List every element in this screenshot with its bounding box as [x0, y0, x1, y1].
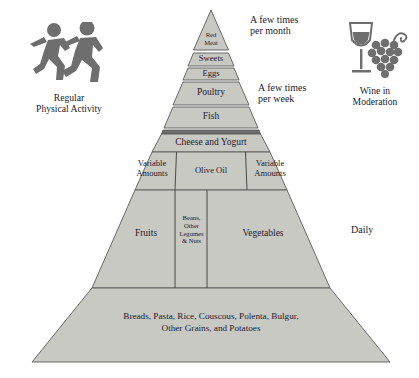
tier-shape-produce-row — [92, 190, 330, 288]
tier-divider-band — [162, 130, 261, 134]
tier-shape-base-grains — [32, 288, 390, 362]
tier-shape-eggs — [183, 68, 239, 80]
wine-glass-grapes-icon — [340, 20, 412, 82]
running-people-icon — [24, 22, 114, 84]
tier-shape-red-meat — [194, 10, 229, 50]
tier-shape-variable-amounts-row — [135, 152, 287, 190]
tier-shape-fish — [164, 107, 258, 128]
mediterranean-diet-pyramid-diagram: Red Meat Sweets Eggs Poultry Fish Cheese… — [0, 0, 419, 378]
tier-shape-cheese-yogurt — [152, 134, 270, 152]
tier-shape-poultry — [173, 82, 249, 105]
tier-shape-sweets — [188, 53, 234, 66]
